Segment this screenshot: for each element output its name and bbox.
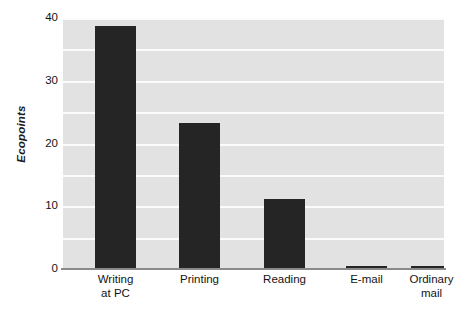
- y-tick-40: 40: [26, 12, 58, 24]
- plot-area: [63, 18, 444, 269]
- x-label-writing-at-pc: Writing at PC: [75, 272, 156, 300]
- x-label-reading: Reading: [244, 272, 325, 286]
- x-axis-line: [61, 268, 446, 270]
- y-axis-tick-labels: 40 30 20 10 0: [26, 0, 58, 318]
- bar-chart: Ecopoints 40 30 20 10 0 Writing at PC Pr…: [0, 0, 467, 318]
- bar-printing: [179, 123, 220, 269]
- bar-writing-at-pc: [95, 26, 136, 269]
- bar-reading: [264, 199, 305, 269]
- y-tick-20: 20: [26, 138, 58, 150]
- y-tick-10: 10: [26, 201, 58, 213]
- x-label-ordinary-mail: Ordinary mail: [391, 272, 467, 300]
- y-tick-30: 30: [26, 75, 58, 87]
- y-tick-0: 0: [26, 263, 58, 275]
- x-axis-tick-labels: Writing at PC Printing Reading E-mail Or…: [63, 272, 444, 318]
- gridline-40: [63, 18, 444, 20]
- x-label-printing: Printing: [159, 272, 240, 286]
